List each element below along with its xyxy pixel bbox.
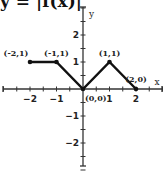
x-axis-label: x — [154, 77, 159, 87]
data-point — [81, 87, 86, 92]
point-annotation: (2,0) — [125, 74, 147, 84]
data-point — [134, 87, 139, 92]
x-tick-label: −2 — [23, 94, 37, 104]
axes — [3, 7, 162, 166]
y-tick-label: −2 — [65, 138, 79, 148]
x-tick-label: −1 — [50, 94, 64, 104]
y-tick-label: −1 — [65, 111, 79, 121]
point-annotation: (-1,1) — [44, 48, 69, 58]
point-annotation: (0,0) — [85, 93, 107, 103]
data-point — [28, 60, 33, 65]
point-annotation: (-2,1) — [4, 48, 29, 58]
data-point — [54, 60, 59, 65]
x-tick-label: 2 — [133, 94, 139, 104]
x-tick-label: 1 — [106, 94, 112, 104]
point-annotation: (1,1) — [99, 48, 121, 58]
function-graph: −2−11221−1−2xy (-2,1)(-1,1)(0,0)(1,1)(2,… — [0, 0, 165, 171]
y-tick-label: 2 — [73, 30, 79, 40]
y-tick-label: 1 — [73, 57, 79, 67]
y-axis-label: y — [88, 9, 95, 19]
data-point — [107, 60, 112, 65]
